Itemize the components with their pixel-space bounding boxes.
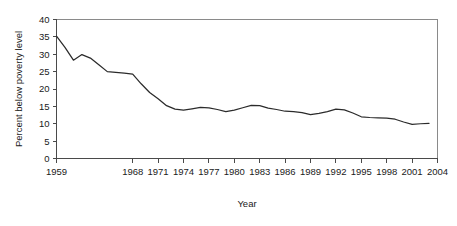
y-tick-label: 5 <box>44 136 49 147</box>
y-tick-label: 40 <box>39 14 50 25</box>
y-axis-title: Percent below poverty level <box>13 31 24 147</box>
x-tick-label: 1986 <box>275 166 296 177</box>
y-tick-label: 35 <box>39 31 50 42</box>
y-tick-label: 10 <box>39 118 50 129</box>
x-tick-label: 1998 <box>376 166 397 177</box>
x-tick-label: 2004 <box>427 166 448 177</box>
plot-frame <box>57 20 438 159</box>
x-axis-title: Year <box>237 198 256 209</box>
poverty-rate-line <box>57 36 430 124</box>
x-tick-label: 1959 <box>46 166 67 177</box>
y-axis-tick-labels: 0510152025303540 <box>39 14 50 164</box>
chart-canvas: 0510152025303540 19591968197119741977198… <box>0 0 457 226</box>
y-tick-label: 0 <box>44 153 49 164</box>
x-tick-label: 1995 <box>351 166 372 177</box>
y-axis-ticks <box>53 20 57 159</box>
x-tick-label: 1983 <box>249 166 270 177</box>
x-tick-label: 1980 <box>224 166 245 177</box>
x-tick-label: 1971 <box>148 166 169 177</box>
x-tick-label: 2001 <box>402 166 423 177</box>
x-tick-label: 1989 <box>300 166 321 177</box>
x-axis-tick-labels: 1959196819711974197719801983198619891992… <box>46 166 448 177</box>
poverty-line-chart: 0510152025303540 19591968197119741977198… <box>0 0 457 226</box>
x-axis-ticks <box>57 159 438 163</box>
x-tick-label: 1977 <box>198 166 219 177</box>
y-tick-label: 15 <box>39 101 50 112</box>
y-tick-label: 30 <box>39 49 50 60</box>
x-tick-label: 1968 <box>122 166 143 177</box>
y-tick-label: 20 <box>39 83 50 94</box>
x-tick-label: 1992 <box>325 166 346 177</box>
y-tick-label: 25 <box>39 66 50 77</box>
x-tick-label: 1974 <box>173 166 194 177</box>
